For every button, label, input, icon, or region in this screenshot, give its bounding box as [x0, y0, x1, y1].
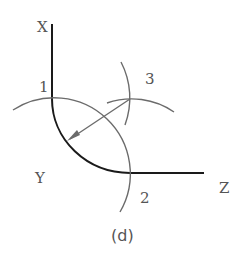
- label-y: Y: [34, 169, 46, 187]
- label-2: 2: [140, 189, 150, 207]
- figure-caption: (d): [111, 226, 134, 245]
- label-1: 1: [39, 78, 49, 96]
- construction-arc-from-1: [121, 62, 130, 125]
- label-x: X: [37, 18, 48, 36]
- label-z: Z: [219, 179, 229, 197]
- fillet-arc: [52, 99, 130, 173]
- arrowhead-icon: [67, 130, 80, 141]
- radius-line: [70, 99, 130, 139]
- construction-arc-from-2: [107, 99, 174, 112]
- fillet-construction-diagram: X 1 3 Y 2 Z (d): [0, 0, 246, 264]
- construction-arc-corner: [13, 98, 130, 212]
- label-3: 3: [145, 70, 155, 88]
